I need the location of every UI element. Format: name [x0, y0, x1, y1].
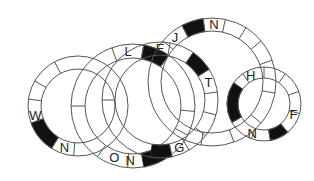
cell-divider — [28, 99, 41, 101]
cell-divider — [262, 91, 275, 93]
cell-divider — [223, 19, 226, 32]
cell-divider — [251, 115, 261, 123]
cell-letter: N — [125, 153, 134, 168]
cell-divider — [55, 62, 61, 73]
cell-letter: N — [248, 126, 257, 141]
cell-divider — [181, 110, 195, 111]
cell-letter: N — [60, 140, 69, 155]
cell-divider — [239, 28, 246, 39]
cell-letter: F — [290, 107, 298, 122]
cell-divider — [203, 112, 216, 115]
cell-letter: T — [204, 75, 212, 90]
cell-letter: O — [109, 150, 119, 165]
cell-letter: H — [246, 68, 255, 83]
cell-divider — [175, 129, 187, 136]
cell-divider — [288, 91, 298, 95]
cell-divider — [260, 60, 272, 64]
cell-letter: G — [174, 140, 184, 155]
cell-divider — [251, 41, 261, 49]
cell-divider — [74, 143, 75, 156]
cell-divider — [35, 81, 46, 88]
ring-puzzle-diagram: WNLONETGJNHFN — [0, 0, 314, 181]
cell-letter: N — [209, 17, 218, 32]
cell-letter: W — [29, 108, 42, 123]
inner-circle — [115, 55, 205, 145]
cell-divider — [205, 92, 218, 94]
cell-divider — [229, 130, 233, 142]
black-cell — [150, 144, 172, 158]
ring-5: HFN — [227, 67, 301, 141]
cell-divider — [279, 74, 285, 83]
cell-letter: J — [172, 30, 179, 45]
puzzle-canvas: WNLONETGJNHFN — [0, 0, 314, 181]
inner-circle — [238, 78, 290, 130]
cell-divider — [112, 48, 117, 61]
